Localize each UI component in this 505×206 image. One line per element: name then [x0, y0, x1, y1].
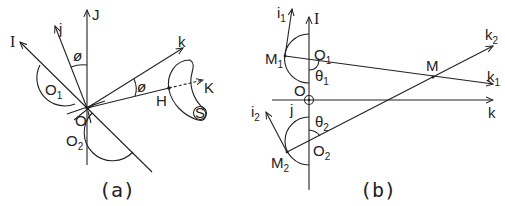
label-O2: O2	[313, 142, 331, 162]
label-O1: O1	[45, 81, 63, 101]
label-I: I	[10, 33, 15, 50]
label-H: H	[156, 92, 167, 109]
panel-a: J j I k H K ø ø O O1 O2	[10, 6, 214, 202]
label-i2: i2	[251, 103, 260, 123]
label-O1: O1	[314, 46, 332, 66]
angle-arc-phi-top	[71, 65, 87, 67]
semicircle-M2	[285, 117, 309, 165]
label-k: k	[488, 104, 496, 121]
semicircle-O2	[84, 113, 133, 161]
label-phi-top: ø	[73, 47, 82, 64]
label-I: I	[314, 10, 319, 27]
point-O	[308, 99, 311, 102]
label-k: k	[178, 33, 186, 50]
vector-i1	[285, 9, 292, 56]
label-phi-right: ø	[137, 78, 146, 95]
label-O2: O2	[66, 132, 84, 152]
caption-b: (b)	[360, 178, 396, 202]
label-O: O	[294, 82, 306, 99]
label-i1: i1	[277, 4, 286, 24]
label-M2: M2	[271, 154, 290, 174]
label-theta2: θ2	[315, 113, 329, 133]
label-k1: k1	[487, 68, 501, 88]
panel-b: I k O j M1 i1 O1 θ1 k1 M2 i2 O2 θ2 k2	[251, 4, 501, 202]
label-theta1: θ1	[315, 67, 329, 87]
label-k2: k2	[485, 26, 499, 46]
point-M	[432, 76, 435, 79]
vector-i2	[266, 112, 287, 152]
caption-a: (a)	[99, 178, 135, 202]
label-M1: M1	[265, 50, 284, 70]
label-J: J	[92, 6, 100, 23]
angle-arc-phi-right	[134, 79, 136, 96]
label-S: S	[195, 104, 205, 121]
label-j: j	[58, 20, 62, 37]
vector-K-dashed	[169, 80, 203, 88]
point-O	[85, 106, 88, 109]
label-K: K	[204, 79, 214, 96]
angle-arc-theta2	[309, 130, 320, 136]
label-M: M	[426, 57, 439, 74]
label-j: j	[289, 101, 293, 118]
diagram-canvas: J j I k H K ø ø O O1 O2	[0, 0, 505, 206]
